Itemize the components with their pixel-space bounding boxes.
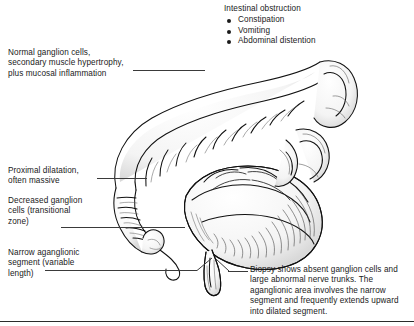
callout-proximal-dilatation: Proximal dilatation, often massive <box>8 166 79 187</box>
obstruction-symptom-list: Constipation Vomiting Abdominal distenti… <box>226 15 316 47</box>
callout-decreased-ganglion-cells: Decreased ganglion cells (transitional z… <box>8 196 82 227</box>
dilated-sigmoid <box>184 166 322 270</box>
bottom-divider <box>0 321 414 322</box>
figure-page: Intestinal obstruction Constipation Vomi… <box>0 0 414 326</box>
callout-narrow-aganglionic-segment: Narrow aganglionic segment (variable len… <box>8 248 80 279</box>
sigmoid-upper-loops <box>275 129 329 186</box>
hepatic-flexure <box>314 61 357 128</box>
leader-line-normal-ganglion <box>133 70 205 71</box>
callout-normal-ganglion-cells: Normal ganglion cells, secondary muscle … <box>8 48 123 79</box>
leader-line-proximal-dilatation <box>97 178 147 179</box>
callout-biopsy-note: Biopsy shows absent ganglion cells and l… <box>250 265 410 317</box>
list-item: Abdominal distention <box>226 36 316 47</box>
descending-colon <box>114 188 158 252</box>
leader-line-biopsy <box>228 271 248 272</box>
list-item: Vomiting <box>226 26 316 37</box>
callout-intestinal-obstruction-heading: Intestinal obstruction <box>224 4 301 14</box>
cecum-appendix <box>142 230 180 280</box>
narrow-aganglionic-segment <box>204 250 221 296</box>
colon-body <box>114 61 358 296</box>
list-item: Constipation <box>226 15 316 26</box>
transverse-colon <box>115 62 320 190</box>
